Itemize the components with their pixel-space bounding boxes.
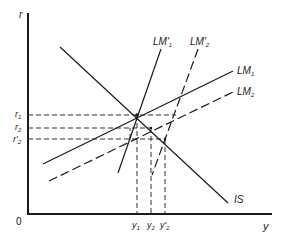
lm1-prime-label-text: LM' — [153, 36, 170, 47]
x-axis-label: y — [262, 220, 270, 232]
is-curve — [60, 47, 228, 203]
lm1-prime-curve — [118, 49, 161, 173]
r2-prime-label-sub: 2 — [17, 139, 22, 145]
y2-prime-label-sub: 2 — [165, 225, 170, 231]
equilibrium-point-2-prime — [164, 138, 166, 140]
r1-label-sub: 1 — [18, 114, 21, 120]
lm1-label-sub: 1 — [251, 71, 254, 77]
lm1-label-text: LM — [237, 65, 252, 76]
y1-label: y1 — [131, 220, 140, 231]
r2-prime-label: r'2 — [13, 134, 22, 145]
guide-lines — [28, 115, 176, 214]
y2-label: y2 — [146, 220, 156, 231]
y-axis-label: r — [19, 9, 23, 20]
lm1-prime-label: LM'1 — [153, 36, 172, 48]
y1-label-sub: 1 — [137, 225, 140, 231]
lm2-prime-label: LM'2 — [190, 36, 210, 48]
r2-label: r2 — [15, 122, 22, 133]
y2-prime-label: y'2 — [159, 220, 170, 231]
lm1-label: LM1 — [237, 65, 254, 77]
lm2-prime-label-text: LM' — [190, 36, 207, 47]
y2-label-sub: 2 — [151, 225, 156, 231]
is-label-text: IS — [234, 194, 244, 205]
lm1-prime-label-sub: 1 — [169, 42, 172, 48]
is-label: IS — [234, 194, 244, 205]
r1-label: r1 — [15, 109, 21, 120]
lm1-curve — [43, 71, 233, 164]
origin-label: 0 — [16, 216, 22, 227]
islm-diagram: r y 0 IS LM1 LM2 LM'1 LM'2 r1 r2 r'2 y1 … — [0, 0, 288, 245]
r2-label-sub: 2 — [17, 127, 22, 133]
equilibrium-point-1 — [135, 113, 139, 117]
lm2-label-sub: 2 — [250, 92, 255, 98]
lm2-label-text: LM — [237, 86, 252, 97]
equilibrium-point-2 — [150, 127, 152, 129]
lm2-label: LM2 — [237, 86, 255, 98]
lm2-prime-label-sub: 2 — [205, 42, 210, 48]
